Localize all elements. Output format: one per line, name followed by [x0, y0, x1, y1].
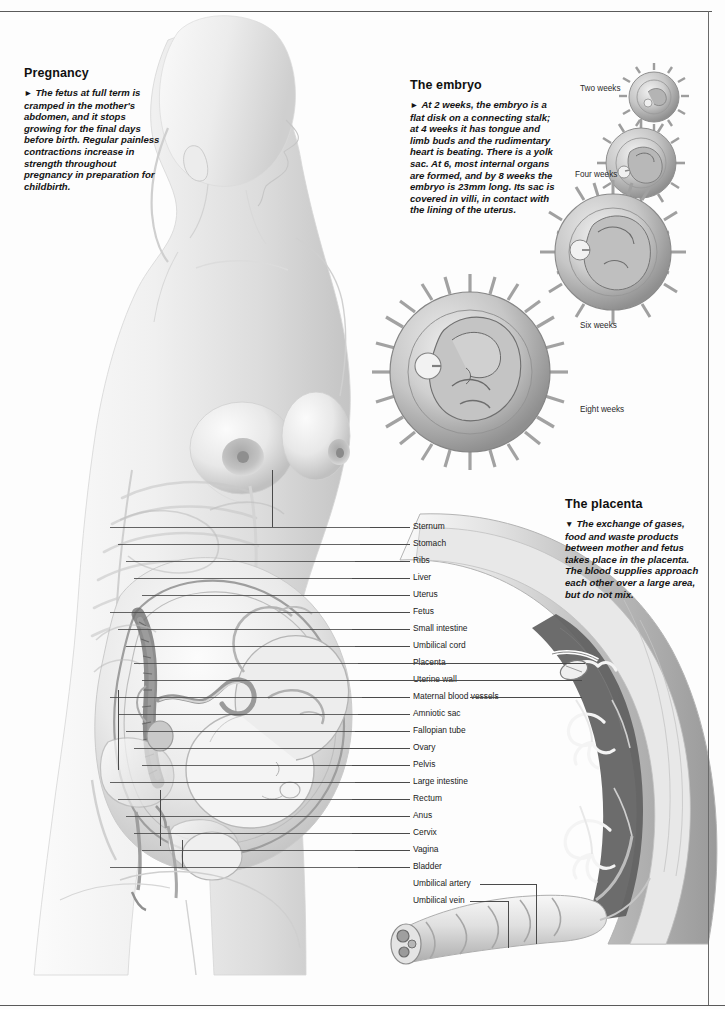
yolk-sac-2w: [644, 99, 652, 107]
placenta-bullet-icon: ▼: [565, 519, 573, 529]
anatomy-leader-line: [352, 833, 410, 834]
anatomy-leader-run: [134, 833, 352, 834]
anatomy-leader-run: [110, 867, 358, 868]
anatomy-label: Pelvis: [413, 760, 435, 769]
anatomy-leader-line: [360, 544, 410, 545]
anatomy-leader-line: [352, 799, 410, 800]
pregnancy-body: ►The fetus at full term is cramped in th…: [24, 87, 164, 192]
head: [159, 16, 295, 187]
anatomy-label: Umbilical vein: [413, 896, 465, 905]
cord-body: [401, 895, 606, 962]
anatomy-leader-run: [118, 799, 352, 800]
anatomy-label: Ovary: [413, 743, 435, 752]
anatomy-label: Fallopian tube: [413, 726, 466, 735]
umbilical-artery-lumen-a: [397, 930, 409, 942]
bladder-leader-v: [182, 840, 183, 868]
anatomy-leader-line: [352, 765, 410, 766]
anatomy-leader-run: [118, 544, 360, 545]
ovary: [147, 721, 173, 751]
anatomy-label: Large intestine: [413, 777, 468, 786]
anatomy-leader-run: [118, 629, 352, 630]
anatomy-label: Sternum: [413, 522, 445, 531]
placenta-heading: The placenta: [565, 497, 705, 511]
anatomy-leader-line: [350, 748, 410, 749]
anatomy-leader-run: [110, 697, 362, 698]
bladder: [182, 832, 242, 880]
thigh-gap: [186, 900, 196, 975]
anatomy-leader-line: [350, 816, 410, 817]
pregnancy-text-block: Pregnancy ►The fetus at full term is cra…: [24, 66, 164, 192]
anatomy-leader-run: [126, 731, 355, 732]
embryo-stage-caption: Eight weeks: [580, 405, 624, 414]
umbilical-artery-lumen-b: [399, 947, 409, 957]
anatomy-label: Bladder: [413, 862, 442, 871]
embryo-six-weeks: [540, 180, 686, 324]
anatomy-leader-run: [142, 850, 355, 851]
vagina-leader-v: [160, 790, 161, 846]
right-rule: [708, 11, 709, 1006]
umbilical-artery-leader: [480, 884, 536, 885]
embryo-stage-caption: Six weeks: [580, 321, 617, 330]
anatomy-label: Cervix: [413, 828, 437, 837]
umbilical-artery-leader-v: [536, 884, 537, 944]
embryo-body: ►At 2 weeks, the embryo is a flat disk o…: [410, 99, 558, 216]
placenta-text-block: The placenta ▼The exchange of gases, foo…: [565, 497, 705, 600]
anatomy-leader-run: [126, 561, 355, 562]
anatomy-label: Umbilical cord: [413, 641, 466, 650]
anatomy-leader-line: [358, 867, 410, 868]
anatomy-label: Fetus: [413, 607, 434, 616]
anatomy-leader-run: [142, 680, 360, 681]
embryo-heading: The embryo: [410, 78, 558, 92]
nipple-near: [237, 451, 249, 463]
encyclopedia-page: Pregnancy ►The fetus at full term is cra…: [0, 0, 725, 1009]
anatomy-label: Amniotic sac: [413, 709, 460, 718]
anatomy-leader-run: [134, 578, 352, 579]
anatomy-leader-line: [355, 782, 410, 783]
umbilical-vein-leader: [470, 901, 508, 902]
anatomy-label: Stomach: [413, 539, 446, 548]
nipple-far: [336, 448, 344, 458]
anatomy-leader-line: [350, 612, 410, 613]
sternum-leader-v: [272, 470, 273, 527]
anatomy-leader-line: [350, 595, 410, 596]
anatomy-label: Uterus: [413, 590, 438, 599]
anatomy-label: Vagina: [413, 845, 438, 854]
embryo-body-text: At 2 weeks, the embryo is a flat disk on…: [410, 99, 555, 215]
anatomy-leader-run: [134, 748, 350, 749]
placenta-body-text: The exchange of gases, food and waste pr…: [565, 518, 698, 600]
embryo-eight-weeks: [372, 274, 568, 470]
anatomy-leader-line: [362, 697, 410, 698]
anatomy-leader-run: [142, 765, 352, 766]
embryo-bullet-icon: ►: [410, 100, 418, 110]
anatomy-leader-line: [358, 663, 410, 664]
anatomy-label: Ribs: [413, 556, 430, 565]
anatomy-label: Rectum: [413, 794, 442, 803]
anatomy-leader-line: [355, 646, 410, 647]
breast-far: [282, 392, 350, 480]
anatomy-leader-line: [358, 714, 410, 715]
umbilical-vein-lumen: [408, 940, 416, 948]
pregnancy-heading: Pregnancy: [24, 66, 164, 80]
anatomy-leader-run: [134, 663, 358, 664]
anatomy-label: Anus: [413, 811, 432, 820]
anatomy-leader-run: [126, 646, 355, 647]
anatomy-leader-line: [360, 680, 410, 681]
pelvis-leader-v: [118, 690, 119, 770]
uterine-wall-leader-long: [410, 680, 582, 681]
anatomy-leader-line: [352, 578, 410, 579]
anatomy-leader-run: [110, 612, 350, 613]
anatomy-leader-line: [355, 561, 410, 562]
anatomy-label: Liver: [413, 573, 431, 582]
anatomy-leader-line: [352, 629, 410, 630]
embryo-text-block: The embryo ►At 2 weeks, the embryo is a …: [410, 78, 558, 216]
pregnancy-bullet-icon: ►: [24, 88, 32, 98]
anatomy-label: Small intestine: [413, 624, 467, 633]
anatomy-leader-line: [355, 850, 410, 851]
top-rule: [0, 11, 712, 12]
anatomy-leader-line: [355, 731, 410, 732]
villi-stems: [576, 700, 592, 854]
embryo-two-weeks: [619, 63, 689, 131]
embryo-stage-caption: Four weeks: [575, 170, 617, 179]
embryo-stage-caption: Two weeks: [580, 84, 621, 93]
placenta-leader-long: [410, 663, 585, 664]
